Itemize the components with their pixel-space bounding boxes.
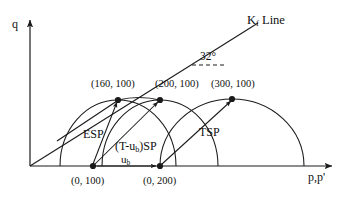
- x-axis-label: p,p': [308, 171, 325, 183]
- ub-label: ub: [121, 154, 130, 166]
- point-label-200-100: (200, 100): [155, 79, 199, 90]
- kf-angle-label: 32°: [200, 51, 216, 63]
- esp-region-label: ESP: [83, 128, 104, 140]
- data-point-200-100: [157, 97, 163, 103]
- tsp-arc: [160, 99, 304, 166]
- data-point-160-100: [115, 97, 121, 103]
- point-label-160-100: (160, 100): [91, 79, 135, 90]
- data-point-300-100: [229, 96, 235, 102]
- tsp-region-label: TSP: [199, 126, 220, 138]
- kf-line-label-suffix: Line: [259, 13, 285, 27]
- ub-label-sub: b: [127, 158, 131, 167]
- top-connector: [118, 98, 160, 101]
- esp-arc: [60, 100, 176, 166]
- data-point-0-100: [90, 163, 96, 169]
- t-minus-ub-sp-suffix: )SP: [139, 139, 156, 153]
- stress-path-diagram: q p,p' Kf Line 32° (160, 100) (200, 100)…: [0, 0, 346, 199]
- kf-line-label: Kf Line: [247, 14, 285, 27]
- point-label-0-100: (0, 100): [71, 176, 104, 187]
- point-label-300-100: (300, 100): [211, 79, 255, 90]
- path-line-tsp: [162, 101, 231, 164]
- t-minus-ub-sp-prefix: (T-u: [115, 139, 135, 153]
- t-minus-ub-sp-label: (T-ub)SP: [115, 140, 157, 154]
- data-point-0-200: [157, 163, 163, 169]
- point-label-0-200: (0, 200): [143, 176, 176, 187]
- diagram-canvas: [0, 0, 346, 199]
- y-axis-label: q: [12, 18, 18, 30]
- kf-line-label-main: K: [247, 13, 256, 27]
